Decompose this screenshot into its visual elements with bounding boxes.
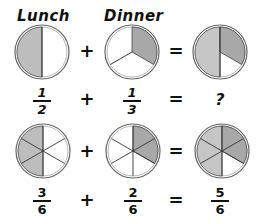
numerator: 1 [120, 86, 144, 99]
equals-sign: = [166, 189, 186, 210]
denominator: 6 [30, 203, 54, 217]
denominator: 6 [121, 203, 145, 217]
fraction-two-sixths: 2 6 [121, 186, 145, 217]
dinner-heading: Dinner [104, 7, 164, 25]
numerator: 2 [121, 186, 145, 199]
equals-sign: = [166, 40, 186, 61]
unknown-result: ? [210, 90, 230, 109]
equals-sign: = [166, 88, 186, 109]
denominator: 2 [30, 103, 54, 117]
lunch-heading: Lunch [17, 7, 70, 25]
plus-sign: + [77, 40, 97, 61]
denominator: 3 [120, 103, 144, 117]
lunch-half-pie [14, 24, 70, 80]
five-sixths-pie [194, 123, 250, 179]
fraction-three-sixths: 3 6 [30, 186, 54, 217]
plus-sign: + [77, 88, 97, 109]
numerator: 3 [30, 186, 54, 199]
result-unknown-pie [192, 24, 248, 80]
numerator: 5 [208, 186, 232, 199]
three-sixths-pie [15, 123, 71, 179]
fraction-one-third: 1 3 [120, 86, 144, 117]
fraction-five-sixths: 5 6 [208, 186, 232, 217]
dinner-third-pie [104, 24, 160, 80]
numerator: 1 [30, 86, 54, 99]
plus-sign: + [77, 140, 97, 161]
equals-sign: = [166, 140, 186, 161]
denominator: 6 [208, 203, 232, 217]
two-sixths-pie [105, 123, 161, 179]
fraction-one-half: 1 2 [30, 86, 54, 117]
plus-sign: + [77, 189, 97, 210]
